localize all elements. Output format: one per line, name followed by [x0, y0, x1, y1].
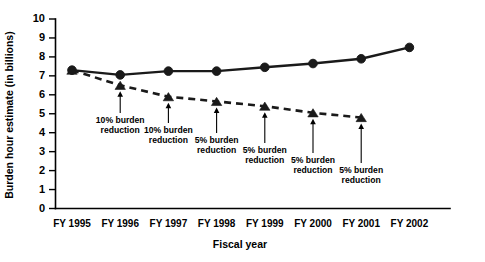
- x-tick-label: FY 1997: [150, 218, 188, 229]
- x-axis-title: Fiscal year: [213, 238, 267, 250]
- y-tick-label: 6: [39, 88, 45, 100]
- annotation-arrow-head: [166, 103, 172, 109]
- x-tick-label: FY 2001: [342, 218, 380, 229]
- annotation-arrow-head: [310, 119, 316, 125]
- annotation-arrow-head: [262, 112, 268, 118]
- annotation-label-line2: reduction: [293, 165, 332, 175]
- annotation-1: 10% burdenreduction: [96, 91, 145, 135]
- data-point-marker: [357, 54, 366, 63]
- annotation-arrow-head: [117, 91, 123, 97]
- x-tick-label: FY 1995: [53, 218, 91, 229]
- annotation-label-line1: 10% burden: [144, 125, 193, 135]
- x-tick-label: FY 1999: [246, 218, 284, 229]
- x-tick-label: FY 1996: [101, 218, 139, 229]
- y-tick-label: 4: [39, 126, 46, 138]
- x-tick-label: FY 2000: [294, 218, 332, 229]
- x-axis-group: FY 1995FY 1996FY 1997FY 1998FY 1999FY 20…: [53, 209, 450, 251]
- markers-layer: [67, 43, 414, 122]
- y-axis-group: 012345678910 Burden hour estimate (in bi…: [3, 12, 56, 214]
- y-tick-labels: 012345678910: [33, 12, 46, 214]
- annotation-label-line1: 5% burden: [195, 135, 239, 145]
- annotation-label-line2: reduction: [342, 175, 381, 185]
- annotation-label-line1: 10% burden: [96, 115, 145, 125]
- y-tick-label: 9: [39, 31, 45, 43]
- y-tick-label: 3: [39, 145, 45, 157]
- y-axis-title: Burden hour estimate (in billions): [3, 31, 15, 198]
- data-point-marker: [405, 43, 414, 52]
- annotation-label-line1: 5% burden: [291, 155, 335, 165]
- y-tick-label: 8: [39, 50, 45, 62]
- x-tick-label: FY 1998: [198, 218, 236, 229]
- data-point-marker: [309, 59, 318, 68]
- annotation-5: 5% burdenreduction: [291, 119, 335, 175]
- data-point-marker: [116, 71, 125, 80]
- annotation-2: 10% burdenreduction: [144, 103, 193, 145]
- x-tick-labels: FY 1995FY 1996FY 1997FY 1998FY 1999FY 20…: [53, 218, 428, 229]
- annotation-4: 5% burdenreduction: [243, 112, 287, 165]
- annotation-label-line2: reduction: [101, 125, 140, 135]
- y-tick-label: 5: [39, 107, 45, 119]
- line-chart-canvas: 012345678910 Burden hour estimate (in bi…: [0, 0, 485, 262]
- annotation-6: 5% burdenreduction: [339, 124, 383, 185]
- data-point-marker: [212, 67, 221, 76]
- annotation-label-line2: reduction: [149, 135, 188, 145]
- annotation-label-line2: reduction: [197, 145, 236, 155]
- annotation-label-line2: reduction: [245, 155, 284, 165]
- x-tick-label: FY 2002: [391, 218, 429, 229]
- y-tick-marks: [49, 19, 56, 209]
- y-tick-label: 0: [39, 202, 45, 214]
- annotation-arrow-head: [214, 107, 220, 113]
- annotations-layer: 10% burdenreduction10% burdenreduction5%…: [96, 91, 383, 185]
- data-point-marker: [261, 63, 270, 72]
- annotation-arrow-head: [358, 124, 364, 129]
- y-tick-label: 10: [33, 12, 45, 24]
- chart-figure: 012345678910 Burden hour estimate (in bi…: [0, 0, 485, 262]
- y-tick-label: 1: [39, 183, 45, 195]
- y-tick-label: 7: [39, 69, 45, 81]
- annotation-label-line1: 5% burden: [243, 145, 287, 155]
- annotation-3: 5% burdenreduction: [195, 107, 239, 155]
- annotation-label-line1: 5% burden: [339, 165, 383, 175]
- data-point-marker: [164, 67, 173, 76]
- y-tick-label: 2: [39, 164, 45, 176]
